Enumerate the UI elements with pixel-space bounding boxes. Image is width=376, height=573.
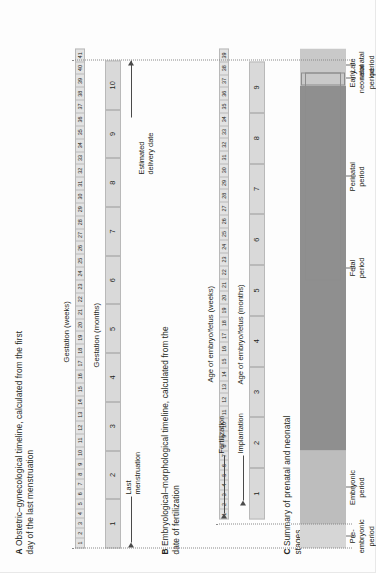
panel-b-week-30: 30 <box>220 163 228 176</box>
panel-a-week-18: 18 <box>76 344 84 357</box>
panel-a-week-8: 8 <box>76 469 84 479</box>
panel-b-week-35: 35 <box>220 100 228 113</box>
panel-a-week-12: 12 <box>76 421 84 434</box>
panel-b-week-27: 27 <box>220 202 228 215</box>
panel-a-week-22: 22 <box>76 292 84 305</box>
panel-b-weeks-axis-label: Age of embryo/fetus (weeks) <box>206 286 215 383</box>
panel-a-title-text: Obstetric–gynecological timeline, calcul… <box>14 331 35 555</box>
overlay-early-neonatal-period <box>301 73 345 85</box>
panel-b-month-4: 4 <box>250 315 264 366</box>
panel-a-week-26: 26 <box>76 241 84 254</box>
panel-a-month-4: 4 <box>106 353 120 402</box>
alignment-guide-delivery <box>72 60 352 61</box>
panel-a-week-1: 1 <box>76 538 84 548</box>
panel-b-month-7: 7 <box>250 163 264 214</box>
panel-b-months-axis-label: Age of embryo/fetus (months) <box>236 284 245 384</box>
panel-b-month-8: 8 <box>250 112 264 163</box>
panel-a-month-5: 5 <box>106 304 120 353</box>
panel-b-month-9: 9 <box>250 62 264 112</box>
panel-b-month-6: 6 <box>250 214 264 265</box>
panel-a-week-19: 19 <box>76 331 84 344</box>
panel-a-week-20: 20 <box>76 318 84 331</box>
panel-a-month-1: 1 <box>106 499 120 548</box>
panel-a-week-24: 24 <box>76 267 84 280</box>
panel-a-week-17: 17 <box>76 357 84 370</box>
panel-a-month-9: 9 <box>106 109 120 158</box>
panel-a-week-5: 5 <box>76 498 84 508</box>
panel-b-title: B Embryological–morphological timeline, … <box>160 325 181 555</box>
panel-b-week-25: 25 <box>220 227 228 240</box>
panel-a-week-3: 3 <box>76 518 84 528</box>
panel-a-week-15: 15 <box>76 382 84 395</box>
panel-b-month-5: 5 <box>250 265 264 316</box>
panel-b-week-38: 38 <box>220 61 228 74</box>
fertilization-leader <box>224 456 225 514</box>
panel-a-week-10: 10 <box>76 446 84 459</box>
panel-a-week-9: 9 <box>76 459 84 469</box>
fetal-label: Fetal period <box>348 239 367 297</box>
panel-a-week-38: 38 <box>76 87 84 100</box>
panel-a-week-29: 29 <box>76 202 84 215</box>
last-menstruation-leader <box>131 497 132 543</box>
panel-a-title: A Obstetric–gynecological timeline, calc… <box>14 325 35 555</box>
panel-a-letter: A <box>14 548 24 554</box>
panel-b-week-23: 23 <box>220 253 228 266</box>
panel-b-week-31: 31 <box>220 151 228 164</box>
panel-a-week-33: 33 <box>76 151 84 164</box>
estimated-delivery-leader <box>131 61 132 118</box>
panel-b-week-16: 16 <box>220 342 228 355</box>
implantation-arrow <box>240 501 246 506</box>
panel-b-month-1: 1 <box>250 468 264 519</box>
panel-b-week-24: 24 <box>220 240 228 253</box>
panel-a-week-7: 7 <box>76 479 84 489</box>
panel-a-weeks-strip: 1234567891011121314151617181920212223242… <box>75 49 85 549</box>
panel-a-week-40: 40 <box>76 61 84 74</box>
overlay-perinatal-period <box>305 73 341 280</box>
perinatal-label: Perinatal period <box>348 148 367 206</box>
figure-canvas: A Obstetric–gynecological timeline, calc… <box>0 0 376 573</box>
figure-page: A Obstetric–gynecological timeline, calc… <box>0 0 376 573</box>
panel-b-title-text: Embryological–morphological timeline, ca… <box>160 326 181 554</box>
panel-a-month-8: 8 <box>106 158 120 207</box>
panel-b-week-14: 14 <box>220 367 228 380</box>
panel-b-week-20: 20 <box>220 291 228 304</box>
panel-a-months-axis-label: Gestation (months) <box>92 303 101 368</box>
panel-a-week-13: 13 <box>76 408 84 421</box>
panel-c-segment-embryonic <box>300 451 346 524</box>
panel-c-segment-pre-embryonic <box>300 524 346 548</box>
panel-b-week-34: 34 <box>220 112 228 125</box>
panel-a-week-30: 30 <box>76 190 84 203</box>
panel-a-month-3: 3 <box>106 401 120 450</box>
panel-a-month-7: 7 <box>106 207 120 256</box>
panel-a-week-31: 31 <box>76 177 84 190</box>
panel-b-letter: B <box>160 548 170 554</box>
panel-a-week-28: 28 <box>76 215 84 228</box>
panel-a-month-2: 2 <box>106 450 120 499</box>
alignment-guide-fertilization <box>216 523 352 524</box>
embryonic-label: Embryonic period <box>348 459 367 517</box>
panel-b-month-2: 2 <box>250 417 264 468</box>
panel-a-week-21: 21 <box>76 305 84 318</box>
panel-a-week-34: 34 <box>76 138 84 151</box>
panel-a-month-10: 10 <box>106 61 120 109</box>
panel-a-week-39: 39 <box>76 74 84 87</box>
estimated-delivery-arrow <box>128 61 134 66</box>
panel-b-week-36: 36 <box>220 87 228 100</box>
panel-b-months-strip: 123456789 <box>249 62 265 520</box>
panel-b-week-32: 32 <box>220 138 228 151</box>
panel-b-week-26: 26 <box>220 214 228 227</box>
panel-a-week-27: 27 <box>76 228 84 241</box>
panel-b-week-19: 19 <box>220 304 228 317</box>
panel-b-week-15: 15 <box>220 355 228 368</box>
panel-a-week-11: 11 <box>76 434 84 446</box>
implantation-label: Implantation <box>236 390 245 454</box>
panel-b-week-18: 18 <box>220 316 228 329</box>
panel-b-week-29: 29 <box>220 176 228 189</box>
panel-a-week-36: 36 <box>76 113 84 126</box>
panel-a-week-25: 25 <box>76 254 84 267</box>
panel-a-week-14: 14 <box>76 395 84 408</box>
panel-a-week-23: 23 <box>76 279 84 292</box>
last-menstruation-label: Last menstruation <box>124 425 143 495</box>
late-neonatal-label: Late neonatal period <box>348 38 376 94</box>
panel-b-week-22: 22 <box>220 265 228 278</box>
